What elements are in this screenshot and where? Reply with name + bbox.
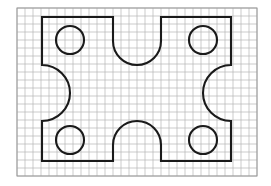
drawing-canvas — [0, 0, 271, 186]
technical-drawing — [0, 0, 271, 186]
